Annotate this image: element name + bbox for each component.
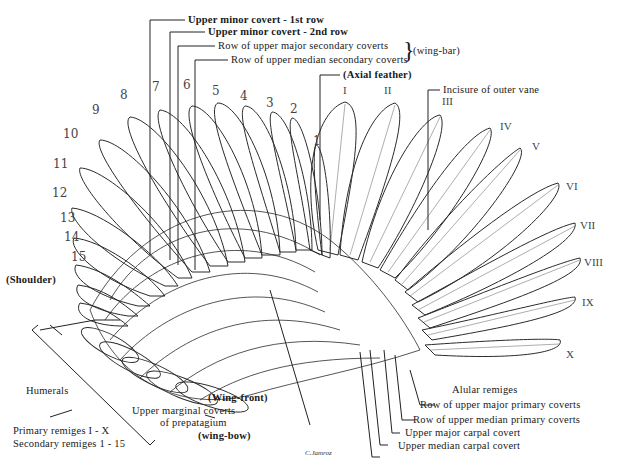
secondary-number-14: 14 — [64, 230, 79, 244]
label-wing-bow: (wing-bow) — [198, 430, 251, 442]
secondary-number-8: 8 — [120, 88, 128, 102]
covert-mass — [90, 210, 420, 400]
label-upper-marginal-coverts: Upper marginal coverts — [132, 405, 235, 417]
secondary-number-11: 11 — [53, 157, 68, 171]
label-major-primary-coverts: Row of upper major primary coverts — [420, 399, 580, 411]
secondary-number-13: 13 — [60, 211, 75, 225]
secondary-number-3: 3 — [266, 96, 274, 110]
primary-numeral-4: IV — [500, 120, 512, 132]
label-wing-bar: (wing-bar) — [413, 45, 460, 57]
legend-secondary-remiges: Secondary remiges 1 - 15 — [13, 438, 125, 450]
primary-numeral-2: II — [384, 84, 391, 96]
primary-numeral-1: I — [343, 84, 347, 96]
label-median-secondary-coverts: Row of upper median secondary coverts — [231, 54, 408, 66]
label-of-prepatagium: of prepatagium — [160, 417, 227, 429]
secondary-number-15: 15 — [71, 250, 86, 264]
label-major-carpal-covert: Upper major carpal covert — [405, 427, 521, 439]
secondary-number-12: 12 — [52, 186, 67, 200]
label-upper-minor-covert-2nd-row: Upper minor covert - 2nd row — [208, 26, 348, 38]
label-wing-front: (Wing-front) — [208, 392, 268, 404]
secondary-number-9: 9 — [92, 103, 100, 117]
label-alular-remiges: Alular remiges — [452, 384, 518, 396]
secondary-number-5: 5 — [212, 84, 220, 98]
primary-numeral-9: IX — [582, 296, 594, 308]
label-major-secondary-coverts: Row of upper major secondary coverts — [218, 40, 388, 52]
primary-numeral-3: III — [442, 95, 453, 107]
secondary-number-4: 4 — [240, 89, 248, 103]
legend-primary-remiges: Primary remiges I - X — [13, 425, 109, 437]
label-median-carpal-covert: Upper median carpal covert — [398, 440, 520, 452]
primary-numeral-6: VI — [566, 180, 578, 192]
secondary-number-2: 2 — [290, 102, 298, 116]
label-humerals: Humerals — [26, 385, 68, 397]
primary-numeral-5: V — [532, 140, 540, 152]
secondary-number-10: 10 — [63, 127, 78, 141]
label-shoulder: (Shoulder) — [6, 274, 56, 286]
label-incisure-outer-vane: Incisure of outer vane — [443, 84, 539, 96]
secondary-number-7: 7 — [152, 80, 160, 94]
label-upper-minor-covert-1st-row: Upper minor covert - 1st row — [188, 14, 324, 26]
wing-illustration — [0, 0, 620, 468]
secondary-remiges — [72, 103, 331, 326]
primary-numeral-8: VIII — [584, 256, 603, 268]
secondary-number-1: 1 — [313, 134, 321, 148]
artist-signature: C.Jamroz — [305, 449, 332, 457]
label-median-primary-coverts: Row of upper median primary coverts — [413, 414, 580, 426]
primary-numeral-10: X — [566, 348, 574, 360]
secondary-number-6: 6 — [183, 78, 191, 92]
label-axial-feather: (Axial feather) — [343, 69, 412, 81]
primary-numeral-7: VII — [580, 219, 595, 231]
